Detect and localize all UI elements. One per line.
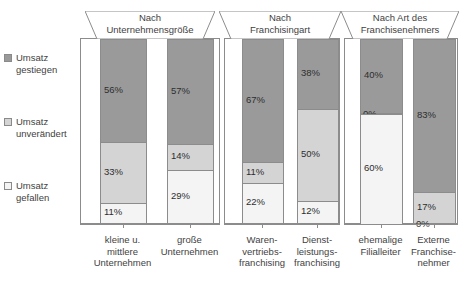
bar-segment: 57%: [167, 39, 214, 144]
bar-segment-label: 14%: [171, 150, 190, 161]
legend-label-gestiegen: Umsatz gestiegen: [16, 52, 57, 75]
bar-segment-label: 56%: [104, 84, 123, 95]
bar-segment: 11%: [242, 162, 284, 182]
bar-segment-label: 11%: [246, 166, 264, 177]
panel-banner-1: Nach Franchisingart: [219, 11, 341, 39]
bar-segment-label: 33%: [104, 166, 123, 177]
panel-title-1: Nach Franchisingart: [219, 12, 341, 35]
panel-banner-0: Nach Unternehmensgröße: [85, 11, 215, 39]
bar-segment: 56%: [100, 39, 147, 142]
legend-label-unveraendert: Umsatz unverändert: [16, 116, 67, 139]
legend-swatch-gefallen: [4, 182, 12, 190]
chart-panel-0: 56%33%11%57%14%29%: [80, 38, 220, 224]
bar-segment-label: 22%: [246, 196, 265, 207]
bar-segment-label: 83%: [417, 109, 436, 120]
panel-baseline: [224, 224, 340, 225]
panel-plot-area-1: 67%11%22%38%50%12%: [225, 39, 339, 223]
stacked-bar[interactable]: 40%0%60%: [360, 39, 403, 223]
bar-segment: 22%: [242, 183, 284, 223]
bar-segment-label: 17%: [417, 201, 436, 212]
bar-segment: 12%: [297, 201, 339, 223]
chart-legend: Umsatz gestiegen Umsatz unverändert Umsa…: [4, 52, 76, 244]
chart-panel-2: 40%0%60%83%17%0%: [344, 38, 458, 224]
bar-segment: 33%: [100, 142, 147, 203]
category-label: kleine u. mittlere Unternehmen: [87, 234, 158, 269]
bar-segment-label: 57%: [171, 85, 190, 96]
stacked-bar[interactable]: 57%14%29%: [167, 39, 214, 223]
panel-banner-2: Nach Art des Franchisenehmers: [341, 11, 459, 39]
panel-plot-area-0: 56%33%11%57%14%29%: [81, 39, 219, 223]
legend-swatch-unveraendert: [4, 118, 12, 126]
bar-segment: 14%: [167, 144, 214, 170]
panel-baseline: [80, 224, 220, 225]
panel-title-0: Nach Unternehmensgröße: [85, 12, 215, 35]
bar-segment-label: 11%: [104, 206, 122, 217]
bar-segment-label: 50%: [301, 148, 320, 159]
panel-baseline: [344, 224, 458, 225]
panel-plot-area-2: 40%0%60%83%17%0%: [345, 39, 457, 223]
category-label: Dienst- leistungs- franchising: [284, 234, 350, 269]
legend-swatch-gestiegen: [4, 54, 12, 62]
stacked-bar[interactable]: 83%17%0%: [413, 39, 456, 223]
bar-segment-label: 60%: [364, 162, 383, 173]
bar-segment-label: 40%: [364, 69, 383, 80]
legend-label-gefallen: Umsatz gefallen: [16, 180, 49, 203]
bar-segment: 40%: [360, 39, 403, 113]
bar-segment-label: 29%: [171, 190, 190, 201]
bar-segment-label: 38%: [301, 67, 320, 78]
stacked-bar[interactable]: 56%33%11%: [100, 39, 147, 223]
stacked-bar-chart: Umsatz gestiegen Umsatz unverändert Umsa…: [0, 0, 462, 287]
bar-segment-label: 67%: [246, 94, 265, 105]
bar-segment: 29%: [167, 170, 214, 223]
bar-segment: 50%: [297, 109, 339, 201]
stacked-bar[interactable]: 38%50%12%: [297, 39, 339, 223]
bar-segment: 67%: [242, 39, 284, 162]
bar-segment: 83%: [413, 39, 456, 192]
legend-item-gefallen: Umsatz gefallen: [4, 180, 76, 203]
bar-segment: 38%: [297, 39, 339, 109]
bar-segment: 60%: [360, 114, 403, 224]
panel-title-2: Nach Art des Franchisenehmers: [341, 12, 459, 35]
legend-item-gestiegen: Umsatz gestiegen: [4, 52, 76, 75]
chart-panel-1: 67%11%22%38%50%12%: [224, 38, 340, 224]
category-label: große Unternehmen: [154, 234, 225, 257]
legend-item-unveraendert: Umsatz unverändert: [4, 116, 76, 139]
bar-segment: 11%: [100, 203, 147, 223]
bar-segment-label: 12%: [301, 205, 320, 216]
stacked-bar[interactable]: 67%11%22%: [242, 39, 284, 223]
category-label: Externe Franchise- nehmer: [400, 234, 462, 269]
